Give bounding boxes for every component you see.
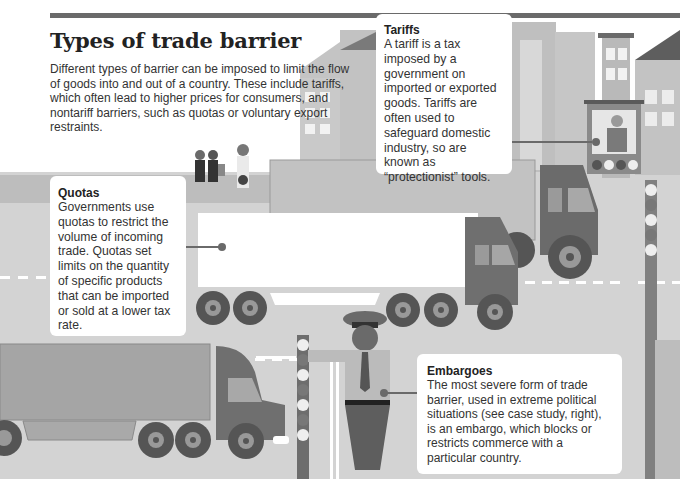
- quotas-body: Governments use quotas to restrict the v…: [58, 200, 178, 333]
- embargoes-body: The most severe form of trade barrier, u…: [427, 378, 612, 466]
- page-title: Types of trade barrier: [50, 28, 301, 53]
- embargoes-heading: Embargoes: [427, 364, 612, 378]
- embargoes-card: Embargoes The most severe form of trade …: [417, 354, 622, 474]
- quotas-heading: Quotas: [58, 186, 178, 200]
- tariffs-heading: Tariffs: [384, 23, 504, 37]
- toll-booth: [584, 100, 644, 174]
- tariffs-card: Tariffs A tariff is a tax imposed by a g…: [376, 14, 512, 174]
- intro-text: Different types of barrier can be impose…: [50, 62, 350, 135]
- quotas-card: Quotas Governments use quotas to restric…: [50, 176, 186, 336]
- tariffs-body: A tariff is a tax imposed by a governmen…: [384, 37, 504, 185]
- header-rule: [50, 13, 680, 18]
